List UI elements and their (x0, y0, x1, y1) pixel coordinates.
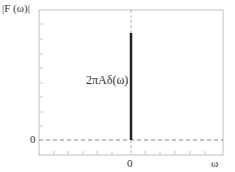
y-zero-label: 0 (30, 133, 36, 145)
x-axis-label: ω (211, 157, 218, 169)
y-axis-label: |F (ω)| (2, 2, 30, 14)
x-ticks (54, 151, 205, 155)
impulse-annotation: 2πAδ(ω) (86, 73, 128, 88)
x-zero-label: 0 (127, 157, 133, 169)
y-ticks (39, 24, 43, 126)
